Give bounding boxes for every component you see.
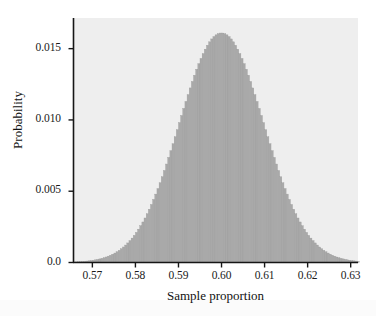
- histogram-bar: [200, 58, 202, 262]
- histogram-bar: [153, 199, 155, 262]
- histogram-bar: [301, 226, 303, 263]
- histogram-bar: [185, 101, 187, 262]
- histogram-bar: [194, 75, 196, 262]
- histogram-bar: [196, 69, 198, 262]
- histogram-bar: [172, 144, 174, 263]
- figure: 0.00.0050.0100.015 0.570.580.590.600.610…: [0, 0, 376, 316]
- histogram-bar: [215, 35, 217, 263]
- histogram-bar: [241, 58, 243, 262]
- histogram-bar: [213, 37, 215, 263]
- x-tick-label: 0.59: [156, 269, 200, 281]
- histogram-bar: [176, 130, 178, 263]
- histogram-bar: [148, 209, 150, 262]
- histogram-bar: [234, 45, 236, 262]
- histogram-bar: [318, 247, 320, 263]
- histogram-bar: [157, 189, 159, 263]
- histogram-bar: [310, 238, 312, 262]
- histogram-bar: [329, 254, 331, 262]
- histogram-bar: [321, 249, 323, 263]
- histogram-bar: [178, 123, 180, 263]
- histogram-bar: [312, 241, 314, 263]
- histogram-bar: [123, 247, 125, 263]
- histogram-bar: [219, 33, 221, 262]
- histogram-bar: [297, 218, 299, 263]
- histogram-bar: [237, 49, 239, 262]
- histogram-bar: [181, 115, 183, 262]
- histogram-bar: [131, 238, 133, 262]
- histogram-bar: [125, 245, 127, 262]
- histogram-bar: [222, 33, 224, 262]
- histogram-bar: [116, 252, 118, 263]
- x-tick-label: 0.58: [113, 269, 157, 281]
- histogram-bar: [127, 243, 129, 263]
- histogram-bar: [265, 130, 267, 263]
- histogram-bar: [314, 243, 316, 263]
- x-tick-label: 0.60: [200, 269, 244, 281]
- histogram-bar: [258, 108, 260, 262]
- histogram-bar: [118, 250, 120, 262]
- histogram-bar: [110, 255, 112, 262]
- histogram-bar: [140, 226, 142, 263]
- histogram-bar: [187, 95, 189, 263]
- histogram-bar: [267, 137, 269, 263]
- histogram-bar: [133, 235, 135, 262]
- histogram-bar: [288, 199, 290, 262]
- histogram-bar: [189, 88, 191, 263]
- histogram-bar: [107, 256, 109, 262]
- histogram-bar: [209, 42, 211, 263]
- histogram-bar: [282, 183, 284, 263]
- histogram-bar: [228, 37, 230, 263]
- histogram-bar: [112, 254, 114, 262]
- histogram-bar: [146, 214, 148, 263]
- histogram-bar: [230, 39, 232, 263]
- histogram-bar: [254, 95, 256, 263]
- histogram-bar: [239, 54, 241, 263]
- histogram-bar: [303, 229, 305, 262]
- histogram-bar: [135, 232, 137, 262]
- histogram-bar: [129, 241, 131, 263]
- histogram-bar: [204, 49, 206, 262]
- histogram-bar: [226, 35, 228, 263]
- histogram-bar: [144, 218, 146, 263]
- histogram-bar: [336, 257, 338, 263]
- y-tick-label: 0.015: [5, 41, 61, 53]
- histogram-bar: [168, 157, 170, 262]
- histogram-bar: [120, 249, 122, 263]
- histogram-bar: [299, 222, 301, 263]
- histogram-bar: [191, 81, 193, 262]
- histogram-bar: [161, 177, 163, 263]
- histogram-bar: [325, 252, 327, 263]
- histogram-bar: [247, 75, 249, 262]
- histogram-bar: [206, 45, 208, 262]
- histogram-bar: [308, 235, 310, 262]
- x-tick-label: 0.57: [70, 269, 114, 281]
- histogram-bar: [271, 151, 273, 263]
- x-tick-label: 0.61: [243, 269, 287, 281]
- histogram-bar: [333, 256, 335, 262]
- histogram-bar: [159, 183, 161, 263]
- histogram-bar: [331, 255, 333, 262]
- histogram-bar: [183, 108, 185, 262]
- x-tick-label: 0.63: [329, 269, 373, 281]
- histogram-bar: [295, 214, 297, 263]
- y-tick-label: 0.0: [5, 255, 61, 267]
- histogram-bar: [198, 64, 200, 263]
- histogram-bar: [155, 194, 157, 262]
- x-axis-label: Sample proportion: [73, 288, 358, 304]
- y-axis-label: Probability: [10, 70, 26, 170]
- histogram-bar: [232, 42, 234, 263]
- histogram-bars: [73, 33, 359, 262]
- histogram-bar: [305, 232, 307, 262]
- histogram-bar: [150, 204, 152, 262]
- histogram-bar: [142, 222, 144, 263]
- histogram-bar: [114, 253, 116, 262]
- histogram-bar: [293, 209, 295, 262]
- histogram-bar: [245, 69, 247, 262]
- histogram-bar: [202, 54, 204, 263]
- histogram-bar: [105, 257, 107, 263]
- histogram-bar: [284, 189, 286, 263]
- histogram-bar: [166, 164, 168, 262]
- histogram-bar: [174, 137, 176, 263]
- histogram-bar: [217, 34, 219, 263]
- histogram-bar: [163, 170, 165, 262]
